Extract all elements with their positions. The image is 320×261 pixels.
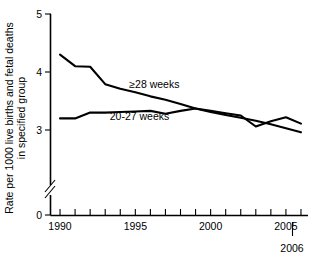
x-tick-label-1995: 1995 [124, 220, 148, 232]
y-tick-label-5: 5 [36, 8, 42, 20]
x-tick-label-2000: 2000 [199, 220, 223, 232]
y-tick-label-3: 3 [36, 124, 42, 136]
line-chart: Rate per 1000 live births and fetal deat… [0, 0, 320, 261]
x-tick-label-2005: 2005 [274, 220, 298, 232]
series-label-20-27-weeks: 20-27 weeks [110, 110, 170, 122]
y-tick-label-0: 0 [36, 209, 42, 221]
y-tick-label-4: 4 [36, 66, 42, 78]
figure-container: Rate per 1000 live births and fetal deat… [0, 0, 320, 261]
series-label-ge28-weeks: ≥28 weeks [129, 78, 179, 90]
y-axis-title-line2: in specified group [15, 77, 27, 159]
end-year-label: 2006 [280, 242, 304, 254]
y-axis-title-line1: Rate per 1000 live births and fetal deat… [3, 22, 15, 213]
x-tick-label-1990: 1990 [48, 220, 72, 232]
